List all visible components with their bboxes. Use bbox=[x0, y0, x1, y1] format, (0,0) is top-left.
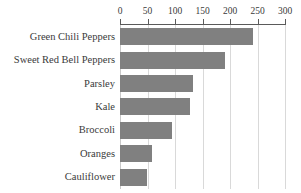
bar-track bbox=[120, 95, 285, 118]
category-label: Cauliflower bbox=[3, 171, 115, 183]
bar bbox=[120, 98, 190, 115]
tick-mark-250 bbox=[258, 19, 259, 24]
bar-track bbox=[120, 142, 285, 165]
bar bbox=[120, 75, 193, 92]
tick-mark-200 bbox=[230, 19, 231, 24]
bar-row: Sweet Red Bell Peppers bbox=[0, 48, 301, 71]
bar bbox=[120, 145, 152, 162]
category-label: Broccoli bbox=[3, 124, 115, 136]
tick-mark-300 bbox=[285, 19, 286, 24]
tick-mark-50 bbox=[148, 19, 149, 24]
bar-row: Broccoli bbox=[0, 119, 301, 142]
bar bbox=[120, 122, 172, 139]
x-tick-label: 0 bbox=[118, 6, 123, 17]
bar bbox=[120, 52, 225, 69]
bar-row: Cauliflower bbox=[0, 166, 301, 189]
bar-track bbox=[120, 166, 285, 189]
x-tick-label: 50 bbox=[143, 6, 153, 17]
tick-mark-0 bbox=[120, 19, 121, 24]
bar bbox=[120, 169, 147, 186]
bar-chart: 050100150200250300 Green Chili PeppersSw… bbox=[0, 0, 301, 193]
category-label: Green Chili Peppers bbox=[3, 31, 115, 43]
category-label: Sweet Red Bell Peppers bbox=[3, 54, 115, 66]
category-label: Parsley bbox=[3, 78, 115, 90]
bar-row: Parsley bbox=[0, 72, 301, 95]
bar bbox=[120, 28, 253, 45]
category-label: Oranges bbox=[3, 148, 115, 160]
tick-mark-100 bbox=[175, 19, 176, 24]
bar-track bbox=[120, 25, 285, 48]
bar-row: Oranges bbox=[0, 142, 301, 165]
x-tick-label: 100 bbox=[168, 6, 182, 17]
bar-rows: Green Chili PeppersSweet Red Bell Pepper… bbox=[0, 25, 301, 189]
tick-mark-150 bbox=[203, 19, 204, 24]
x-tick-label: 150 bbox=[195, 6, 209, 17]
bar-track bbox=[120, 119, 285, 142]
x-tick-label: 250 bbox=[250, 6, 264, 17]
bar-row: Green Chili Peppers bbox=[0, 25, 301, 48]
x-tick-label: 300 bbox=[278, 6, 292, 17]
bar-track bbox=[120, 48, 285, 71]
x-tick-label: 200 bbox=[223, 6, 237, 17]
bar-row: Kale bbox=[0, 95, 301, 118]
bar-track bbox=[120, 72, 285, 95]
category-label: Kale bbox=[3, 101, 115, 113]
